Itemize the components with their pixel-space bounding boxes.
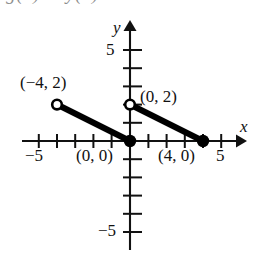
graph-figure: g(x) = y(x) <box>0 0 262 256</box>
closed-point-0-0 <box>124 135 136 147</box>
open-point-0-2 <box>125 100 135 110</box>
y-axis-arrow <box>124 20 137 31</box>
y-tick-label-neg5: −5 <box>98 222 116 239</box>
point-label-neg4-2: (−4, 2) <box>20 74 66 91</box>
y-axis-label: y <box>113 19 121 36</box>
open-point-neg4-2 <box>52 100 62 110</box>
point-label-0-0: (0, 0) <box>76 147 113 164</box>
coordinate-plane <box>0 0 262 256</box>
x-axis-label: x <box>240 118 248 135</box>
x-tick-label-5: 5 <box>216 147 225 164</box>
point-label-4-0: (4, 0) <box>158 147 195 164</box>
x-tick-label-neg5: −5 <box>25 147 43 164</box>
closed-point-4-0 <box>197 135 209 147</box>
x-axis-arrow <box>236 135 247 148</box>
point-label-0-2: (0, 2) <box>140 88 177 105</box>
y-tick-label-5: 5 <box>106 41 115 58</box>
